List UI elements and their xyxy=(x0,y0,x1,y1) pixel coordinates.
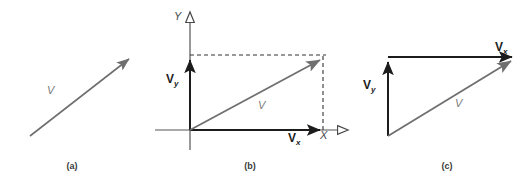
panel-c-y-component-label: Vy xyxy=(363,78,375,92)
panel-b-y-component-label-sub: y xyxy=(174,79,178,88)
panel-b-y-component-label-text: V xyxy=(166,72,174,86)
panel-b-resultant-vector xyxy=(190,60,320,130)
panel-a-resultant-vector xyxy=(30,59,129,136)
panel-c-x-component-label: Vx xyxy=(495,40,507,54)
panel-a-graphics xyxy=(30,59,129,136)
figure-canvas xyxy=(0,0,527,185)
panel-b-caption: (b) xyxy=(230,161,270,171)
panel-b-graphics xyxy=(155,22,338,150)
panel-c-y-component-label-text: V xyxy=(363,78,371,92)
vector-components-figure: V (a) Y X Vy Vx V (b) Vy Vx V (c) xyxy=(0,0,527,185)
x-axis-label: X xyxy=(320,129,327,141)
panel-c-resultant-vector xyxy=(388,61,511,136)
panel-a-vector-label: V xyxy=(47,84,54,96)
panel-b-x-component-label: Vx xyxy=(288,131,300,145)
panel-c-x-component-label-text: V xyxy=(495,40,503,54)
panel-c-y-component-label-sub: y xyxy=(371,85,375,94)
panel-b-x-component-label-text: V xyxy=(288,131,296,145)
panel-b-resultant-label: V xyxy=(258,99,265,111)
panel-b-x-component-label-sub: x xyxy=(296,138,300,147)
y-axis-label: Y xyxy=(174,10,181,22)
panel-c-x-component-label-sub: x xyxy=(503,47,507,56)
panel-c-caption: (c) xyxy=(427,161,467,171)
panel-a-caption: (a) xyxy=(52,161,92,171)
panel-b-y-component-label: Vy xyxy=(166,72,178,86)
panel-c-graphics xyxy=(388,57,512,136)
panel-c-resultant-label: V xyxy=(455,97,462,109)
